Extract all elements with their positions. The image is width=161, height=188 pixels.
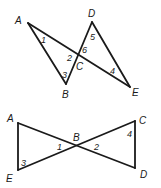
angle-label-5: 5 bbox=[90, 32, 96, 42]
vertex-label-B: B bbox=[73, 132, 80, 143]
vertex-label-C: C bbox=[139, 115, 147, 126]
angle-label-3: 3 bbox=[21, 158, 26, 168]
angle-label-6: 6 bbox=[82, 45, 87, 55]
angle-label-4: 4 bbox=[127, 129, 132, 139]
top-figure: A D B E C 1 2 3 4 5 6 bbox=[14, 8, 139, 100]
segment-AB bbox=[28, 23, 66, 84]
segment-DE bbox=[92, 22, 130, 87]
angle-label-1: 1 bbox=[57, 142, 62, 152]
angle-label-1: 1 bbox=[41, 35, 46, 45]
vertex-label-D: D bbox=[140, 169, 147, 180]
vertex-label-E: E bbox=[6, 173, 13, 184]
vertex-label-B: B bbox=[62, 89, 69, 100]
bottom-figure: A E B C D 1 2 3 4 bbox=[6, 113, 147, 184]
vertex-label-E: E bbox=[132, 87, 139, 98]
angle-label-2: 2 bbox=[93, 142, 99, 152]
geometry-diagram: A D B E C 1 2 3 4 5 6 A E B C D 1 2 3 4 bbox=[0, 0, 161, 188]
angle-label-2: 2 bbox=[66, 53, 72, 63]
segment-EC bbox=[18, 121, 135, 170]
vertex-label-D: D bbox=[88, 8, 95, 19]
vertex-label-A: A bbox=[14, 15, 22, 26]
angle-label-3: 3 bbox=[62, 70, 67, 80]
angle-label-4: 4 bbox=[110, 66, 115, 76]
vertex-label-A: A bbox=[6, 113, 14, 124]
vertex-label-C: C bbox=[76, 61, 84, 72]
